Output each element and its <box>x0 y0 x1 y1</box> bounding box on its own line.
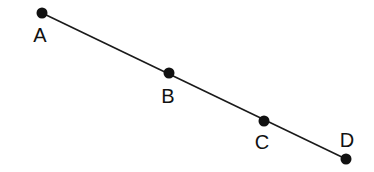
line-segment-diagram: A B C D <box>0 0 374 172</box>
point-a: A <box>33 8 47 47</box>
point-b-label: B <box>161 85 174 107</box>
point-c-label: C <box>255 131 269 153</box>
point-c: C <box>255 116 270 154</box>
point-a-dot <box>37 8 48 19</box>
point-b: B <box>161 68 174 108</box>
point-b-dot <box>164 68 175 79</box>
point-d-label: D <box>340 129 354 151</box>
point-a-label: A <box>33 24 47 46</box>
line-segment-ad <box>42 13 346 159</box>
point-c-dot <box>259 116 270 127</box>
point-d: D <box>340 129 354 165</box>
point-d-dot <box>341 154 352 165</box>
